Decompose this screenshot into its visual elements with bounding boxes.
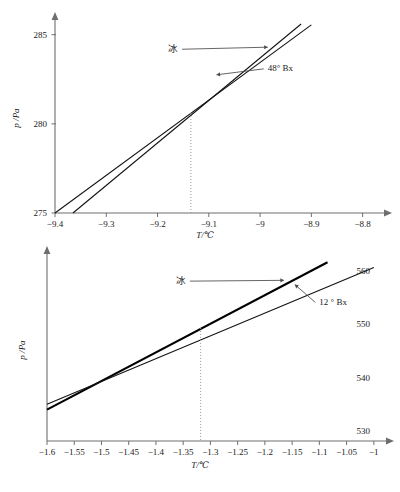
bottom-x-tick-group: −1.6−1.55−1.5−1.45−1.4−1.35−1.3−1.25−1.2…: [39, 441, 379, 457]
series-line: [73, 24, 301, 213]
y-tick-label: 530: [357, 426, 371, 436]
x-tick-label: −9.3: [98, 219, 115, 229]
top-annotation-group: 冰48° Bx: [168, 43, 294, 77]
series-line: [55, 25, 311, 213]
bottom-y-tick-group: 530540550560: [357, 266, 371, 436]
y-tick-label: 280: [34, 119, 48, 129]
top-x-axis-title: T/℃: [196, 230, 215, 240]
bottom-y-axis-title: p /Pa: [17, 340, 27, 361]
x-tick-label: −1.3: [202, 447, 219, 457]
bottom-y-axis-arrow: [44, 246, 51, 254]
top-chart-figure: −9.4−9.3−9.2−9.1−9−8.9−8.8 275280285 冰48…: [0, 0, 400, 246]
x-tick-label: −1.6: [39, 447, 56, 457]
x-tick-label: −1.55: [64, 447, 85, 457]
top-chart-plot: −9.4−9.3−9.2−9.1−9−8.9−8.8 275280285 冰48…: [0, 0, 400, 246]
y-tick-label: 285: [34, 30, 48, 40]
bottom-chart-figure: −1.6−1.55−1.5−1.45−1.4−1.35−1.3−1.25−1.2…: [0, 246, 400, 492]
y-tick-label: 275: [34, 208, 48, 218]
annotation-arrow-head: [280, 278, 284, 282]
bottom-series-group: [47, 262, 374, 409]
series-annotation-label: 冰: [168, 43, 178, 54]
x-tick-label: −1.25: [227, 447, 248, 457]
top-chart-axes: [52, 12, 392, 216]
x-tick-label: −1.05: [336, 447, 357, 457]
x-tick-label: −1.35: [173, 447, 194, 457]
y-tick-label: 540: [357, 373, 371, 383]
series-line: [47, 262, 328, 409]
bottom-chart-plot: −1.6−1.55−1.5−1.45−1.4−1.35−1.3−1.25−1.2…: [0, 246, 400, 492]
annotation-arrow-head: [264, 45, 268, 49]
top-x-tick-group: −9.4−9.3−9.2−9.1−9−8.9−8.8: [47, 213, 371, 229]
annotation-leader-line: [190, 280, 284, 281]
bottom-x-axis-title: T/℃: [191, 460, 210, 470]
bottom-x-axis-arrow: [386, 438, 394, 445]
x-tick-label: −9.4: [47, 219, 64, 229]
x-tick-label: −8.9: [303, 219, 320, 229]
x-tick-label: −9.1: [201, 219, 217, 229]
bottom-chart-axes: [44, 246, 394, 444]
x-tick-label: −1.4: [148, 447, 165, 457]
x-tick-label: −9: [255, 219, 265, 229]
series-annotation-label: 冰: [176, 275, 186, 286]
top-y-axis-title: p /Pa: [11, 108, 21, 129]
annotation-leader-line: [182, 47, 268, 49]
series-annotation-label: 48° Bx: [268, 63, 294, 73]
y-tick-label: 560: [357, 266, 371, 276]
series-line: [47, 268, 374, 405]
x-tick-label: −1: [369, 447, 379, 457]
bottom-annotation-group: 冰12 ° Bx: [176, 275, 348, 307]
top-y-axis-arrow: [52, 12, 59, 20]
y-tick-label: 550: [357, 319, 371, 329]
top-x-axis-arrow: [384, 210, 392, 217]
x-tick-label: −9.2: [149, 219, 165, 229]
top-y-tick-group: 275280285: [34, 30, 57, 218]
top-series-group: [55, 24, 311, 213]
x-tick-label: −1.2: [257, 447, 273, 457]
x-tick-label: −1.45: [118, 447, 139, 457]
x-tick-label: −8.8: [354, 219, 371, 229]
x-tick-label: −1.1: [311, 447, 327, 457]
x-tick-label: −1.5: [93, 447, 110, 457]
x-tick-label: −1.15: [282, 447, 303, 457]
series-annotation-label: 12 ° Bx: [319, 297, 347, 307]
